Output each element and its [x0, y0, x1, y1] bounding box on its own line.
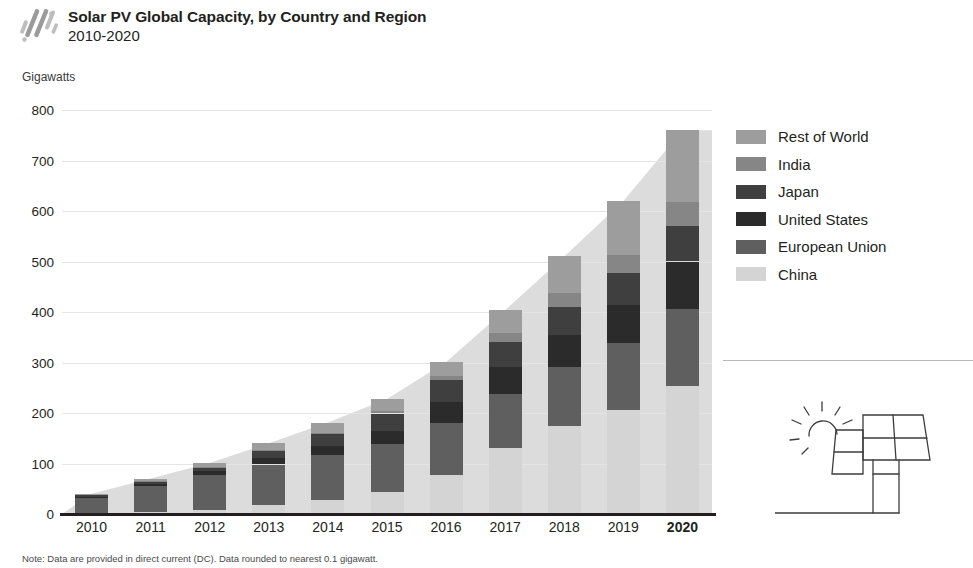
bar-segment-india[interactable]	[430, 376, 463, 381]
bar-segment-rest-of-world[interactable]	[311, 423, 344, 433]
bar-segment-india[interactable]	[548, 293, 581, 307]
solar-panel-with-sun-icon	[775, 388, 960, 518]
bar-segment-united-states[interactable]	[252, 458, 285, 464]
bar-segment-india[interactable]	[666, 202, 699, 226]
bar-2018[interactable]	[548, 110, 581, 514]
legend-item[interactable]: India	[736, 151, 966, 179]
bar-segment-european-union[interactable]	[666, 309, 699, 386]
bar-2016[interactable]	[430, 110, 463, 514]
bar-segment-india[interactable]	[134, 481, 167, 482]
diagonal-stripes-logo	[16, 6, 62, 48]
bar-segment-japan[interactable]	[489, 342, 522, 367]
bar-segment-india[interactable]	[489, 333, 522, 342]
x-axis-label-2013: 2013	[239, 519, 298, 535]
bar-segment-japan[interactable]	[311, 434, 344, 446]
bar-segment-rest-of-world[interactable]	[134, 479, 167, 481]
bar-2014[interactable]	[311, 110, 344, 514]
legend-item[interactable]: China	[736, 261, 966, 289]
x-axis-label-2014: 2014	[298, 519, 357, 535]
bar-segment-united-states[interactable]	[489, 367, 522, 394]
legend-divider	[723, 360, 973, 361]
bar-segment-united-states[interactable]	[193, 471, 226, 475]
x-axis-label-2015: 2015	[357, 519, 416, 535]
bar-segment-rest-of-world[interactable]	[666, 130, 699, 202]
bar-segment-china[interactable]	[666, 386, 699, 514]
bar-segment-india[interactable]	[252, 450, 285, 451]
y-axis-tick-label: 800	[31, 103, 54, 118]
bar-segment-rest-of-world[interactable]	[252, 443, 285, 450]
bar-2010[interactable]	[75, 110, 108, 514]
bar-segment-rest-of-world[interactable]	[75, 494, 108, 495]
x-axis-labels: 2010201120122013201420152016201720182019…	[62, 519, 712, 545]
bar-2020[interactable]	[666, 110, 699, 514]
bar-segment-rest-of-world[interactable]	[193, 463, 226, 467]
bar-segment-european-union[interactable]	[430, 423, 463, 476]
bar-segment-rest-of-world[interactable]	[489, 310, 522, 333]
bar-segment-rest-of-world[interactable]	[371, 399, 404, 411]
bar-segment-india[interactable]	[193, 467, 226, 468]
legend-item-label: Japan	[778, 183, 819, 200]
bar-segment-united-states[interactable]	[311, 446, 344, 456]
legend-item[interactable]: European Union	[736, 233, 966, 261]
bar-segment-european-union[interactable]	[75, 498, 108, 513]
chart-subtitle: 2010-2020	[68, 26, 426, 46]
legend-swatch	[736, 267, 766, 281]
bar-segment-united-states[interactable]	[666, 262, 699, 309]
bar-segment-european-union[interactable]	[371, 444, 404, 492]
bar-segment-united-states[interactable]	[75, 497, 108, 499]
y-axis-tick-label: 200	[31, 406, 54, 421]
bar-segment-japan[interactable]	[607, 273, 640, 305]
bar-segment-japan[interactable]	[252, 451, 285, 458]
bar-segment-european-union[interactable]	[311, 455, 344, 499]
bar-segment-rest-of-world[interactable]	[548, 256, 581, 293]
bar-2019[interactable]	[607, 110, 640, 514]
bar-2013[interactable]	[252, 110, 285, 514]
x-axis-label-2012: 2012	[180, 519, 239, 535]
legend-item-label: India	[778, 156, 811, 173]
x-axis-label-2017: 2017	[476, 519, 535, 535]
bar-segment-european-union[interactable]	[252, 465, 285, 505]
bar-segment-united-states[interactable]	[607, 305, 640, 343]
bar-segment-japan[interactable]	[75, 495, 108, 497]
x-axis-label-2020: 2020	[653, 519, 712, 535]
bar-segment-china[interactable]	[489, 448, 522, 514]
bar-segment-china[interactable]	[607, 410, 640, 514]
bar-2012[interactable]	[193, 110, 226, 514]
bar-segment-japan[interactable]	[193, 468, 226, 472]
legend-item[interactable]: United States	[736, 206, 966, 234]
legend-swatch	[736, 212, 766, 226]
bar-segment-india[interactable]	[311, 433, 344, 435]
bar-segment-rest-of-world[interactable]	[607, 201, 640, 256]
bar-segment-china[interactable]	[371, 492, 404, 514]
y-axis-tick-label: 600	[31, 204, 54, 219]
bar-segment-european-union[interactable]	[489, 394, 522, 449]
legend-item[interactable]: Rest of World	[736, 123, 966, 151]
bar-2017[interactable]	[489, 110, 522, 514]
bar-segment-european-union[interactable]	[193, 475, 226, 510]
bar-segment-india[interactable]	[607, 255, 640, 273]
legend-item-label: Rest of World	[778, 128, 869, 145]
bar-segment-india[interactable]	[371, 411, 404, 414]
bar-segment-rest-of-world[interactable]	[430, 362, 463, 376]
bar-segment-european-union[interactable]	[607, 343, 640, 410]
bar-segment-japan[interactable]	[548, 307, 581, 335]
bar-2015[interactable]	[371, 110, 404, 514]
bar-segment-japan[interactable]	[666, 226, 699, 262]
bar-segment-china[interactable]	[430, 475, 463, 514]
chart-title: Solar PV Global Capacity, by Country and…	[68, 7, 426, 26]
footnote: Note: Data are provided in direct curren…	[22, 553, 722, 565]
bar-segment-japan[interactable]	[134, 481, 167, 484]
bar-segment-united-states[interactable]	[134, 484, 167, 487]
bar-segment-united-states[interactable]	[371, 431, 404, 444]
bar-segment-china[interactable]	[311, 500, 344, 514]
bar-segment-japan[interactable]	[371, 414, 404, 431]
bar-2011[interactable]	[134, 110, 167, 514]
legend-item[interactable]: Japan	[736, 178, 966, 206]
bar-segment-united-states[interactable]	[548, 335, 581, 366]
legend-item-label: United States	[778, 211, 868, 228]
bar-segment-china[interactable]	[548, 426, 581, 514]
bar-segment-japan[interactable]	[430, 380, 463, 402]
bar-segment-united-states[interactable]	[430, 402, 463, 423]
bar-segment-european-union[interactable]	[134, 486, 167, 512]
bar-segment-european-union[interactable]	[548, 367, 581, 426]
